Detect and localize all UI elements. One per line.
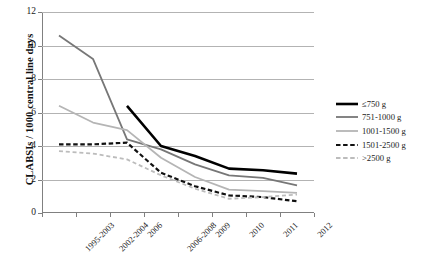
x-tick-mark xyxy=(314,213,315,217)
x-tick-mark xyxy=(246,213,247,217)
legend-item[interactable]: 751-1000 g xyxy=(336,111,424,125)
x-tick-label: 2006 xyxy=(145,220,164,239)
x-tick-label: 2012 xyxy=(315,220,334,239)
legend-label: 1001-1500 g xyxy=(362,126,406,136)
x-tick-mark xyxy=(280,213,281,217)
x-tick-mark xyxy=(212,213,213,217)
legend-item[interactable]: ≤750 g xyxy=(336,97,424,111)
series-line-0 xyxy=(127,106,297,174)
legend-item[interactable]: 1501-2500 g xyxy=(336,138,424,152)
y-tick-label: 8 xyxy=(2,73,36,83)
x-tick-label: 2009 xyxy=(213,220,232,239)
legend-line-swatch-icon xyxy=(336,140,358,150)
chart-legend: ≤750 g751-1000 g1001-1500 g1501-2500 g>2… xyxy=(336,97,424,165)
legend-line-swatch-icon xyxy=(336,112,358,122)
x-tick-label: 2006-2008 xyxy=(185,220,218,253)
legend-label: 1501-2500 g xyxy=(362,140,406,150)
legend-label: 751-1000 g xyxy=(362,112,401,122)
x-tick-label: 1995-2003 xyxy=(83,220,116,253)
chart-figure: CLABSIs / 1000 central line days 0246810… xyxy=(0,0,425,262)
x-tick-mark xyxy=(144,213,145,217)
x-tick-mark xyxy=(76,213,77,217)
y-tick-label: 0 xyxy=(2,207,36,217)
y-tick-label: 10 xyxy=(2,40,36,50)
x-tick-mark xyxy=(178,213,179,217)
legend-line-swatch-icon xyxy=(336,126,358,136)
x-tick-label: 2011 xyxy=(281,220,300,239)
legend-item[interactable]: >2500 g xyxy=(336,151,424,165)
data-series-layer xyxy=(42,12,314,213)
x-tick-mark xyxy=(110,213,111,217)
legend-label: ≤750 g xyxy=(362,99,386,109)
legend-item[interactable]: 1001-1500 g xyxy=(336,124,424,138)
y-tick-label: 2 xyxy=(2,174,36,184)
y-tick-label: 12 xyxy=(2,6,36,16)
legend-label: >2500 g xyxy=(362,153,390,163)
x-tick-label: 2002-2004 xyxy=(117,220,150,253)
y-tick-label: 6 xyxy=(2,107,36,117)
legend-line-swatch-icon xyxy=(336,99,358,109)
plot-area: 024681012 xyxy=(42,12,314,213)
x-tick-mark xyxy=(42,213,43,217)
legend-line-swatch-icon xyxy=(336,153,358,163)
series-line-1 xyxy=(59,35,297,185)
x-tick-label: 2010 xyxy=(247,220,266,239)
y-tick-label: 4 xyxy=(2,140,36,150)
